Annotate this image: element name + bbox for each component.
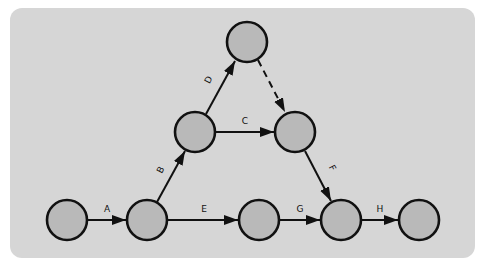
label-e: E xyxy=(201,204,207,214)
label-a: A xyxy=(104,204,111,214)
edge-d xyxy=(206,61,235,114)
label-h: H xyxy=(377,204,384,214)
node-8 xyxy=(399,200,439,240)
edges xyxy=(87,60,398,220)
edge-dummy xyxy=(258,60,285,112)
label-f: F xyxy=(327,163,338,172)
edge-b xyxy=(157,151,185,202)
label-c: C xyxy=(242,116,248,126)
node-6 xyxy=(239,200,279,240)
node-1 xyxy=(47,200,87,240)
label-g: G xyxy=(297,204,304,214)
node-4 xyxy=(227,22,267,62)
network-diagram: A B C D E F G H xyxy=(0,0,485,269)
label-b: B xyxy=(155,165,167,175)
node-3 xyxy=(175,112,215,152)
node-5 xyxy=(275,112,315,152)
label-d: D xyxy=(203,74,215,85)
edge-f xyxy=(305,151,331,201)
node-2 xyxy=(127,200,167,240)
edge-labels: A B C D E F G H xyxy=(104,74,383,213)
node-7 xyxy=(321,200,361,240)
